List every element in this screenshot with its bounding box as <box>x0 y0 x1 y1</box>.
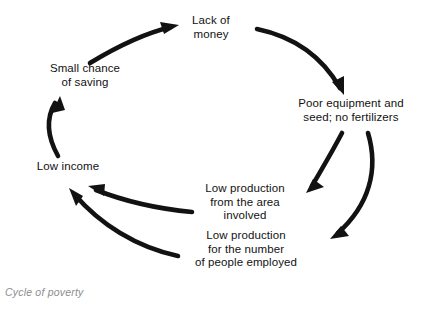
node-low-production-for-number-employed: Low production for the number of people … <box>173 229 319 270</box>
cycle-of-poverty-diagram: Lack of money Poor equipment and seed; n… <box>0 0 429 313</box>
diagram-caption: Cycle of poverty <box>5 286 83 298</box>
node-low-production-from-area: Low production from the area involved <box>186 182 304 223</box>
node-low-income: Low income <box>18 160 118 174</box>
node-poor-equipment: Poor equipment and seed; no fertilizers <box>283 97 419 124</box>
arrow-poor-equipment-to-low-production-number <box>330 133 372 239</box>
arrow-poor-equipment-to-low-production-area <box>306 133 342 193</box>
arrow-low-income-to-small-chance <box>49 96 65 156</box>
arrow-low-production-area-to-low-income <box>88 184 192 212</box>
node-lack-of-money: Lack of money <box>166 14 256 41</box>
node-small-chance-of-saving: Small chance of saving <box>30 62 140 89</box>
arrow-lack-of-money-to-poor-equipment <box>257 29 344 95</box>
